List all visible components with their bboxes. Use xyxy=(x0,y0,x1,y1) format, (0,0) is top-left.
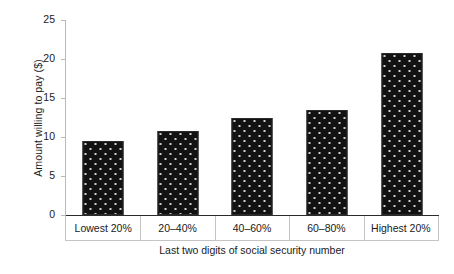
x-axis-category-label: 60–80% xyxy=(289,216,363,240)
y-axis-tick-label: 10 xyxy=(33,131,55,142)
bar[interactable] xyxy=(157,131,198,215)
bar-chart: Amount willing to pay ($) 0510152025 Low… xyxy=(0,0,454,274)
y-axis-tick-label: 5 xyxy=(33,170,55,181)
y-axis-tick-label: 20 xyxy=(33,53,55,64)
bar-slot xyxy=(66,20,141,215)
bar[interactable] xyxy=(83,141,124,215)
x-axis-category-label: 20–40% xyxy=(140,216,214,240)
bar-slot xyxy=(215,20,290,215)
x-axis-category-label: 40–60% xyxy=(215,216,289,240)
y-axis-tick-label: 25 xyxy=(33,14,55,25)
bar-slot xyxy=(141,20,216,215)
x-axis-category-labels: Lowest 20%20–40%40–60%60–80%Highest 20% xyxy=(65,216,439,241)
bar[interactable] xyxy=(381,53,422,215)
y-axis-tick-label: 0 xyxy=(33,209,55,220)
bar[interactable] xyxy=(232,118,273,216)
x-axis-category-label: Highest 20% xyxy=(364,216,438,240)
x-axis-title: Last two digits of social security numbe… xyxy=(65,244,439,256)
bar-slot xyxy=(290,20,365,215)
y-axis-title: Amount willing to pay ($) xyxy=(32,18,44,218)
plot-area xyxy=(66,20,439,215)
x-axis-category-label: Lowest 20% xyxy=(66,216,140,240)
bar[interactable] xyxy=(307,110,348,215)
bar-slot xyxy=(364,20,439,215)
y-axis-tick-label: 15 xyxy=(33,92,55,103)
